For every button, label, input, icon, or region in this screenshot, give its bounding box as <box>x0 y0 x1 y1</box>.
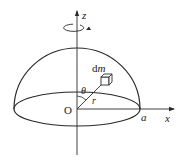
z-axis-label: z <box>81 9 87 21</box>
hemisphere-diagram: z dm θ O r a x <box>0 0 186 162</box>
cube-icon <box>101 74 112 85</box>
angle-arc <box>77 96 86 100</box>
radius-edge-label: a <box>141 111 147 123</box>
mass-element-label: dm <box>92 62 106 74</box>
origin-label: O <box>64 104 72 116</box>
radius-vector-label: r <box>92 95 96 106</box>
x-axis-label: x <box>164 112 170 124</box>
angle-label: θ <box>81 85 86 96</box>
